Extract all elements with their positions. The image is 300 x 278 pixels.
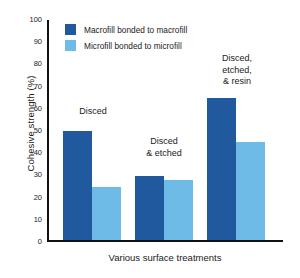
group-label-disced-etched-resin: Disced, etched, & resin (201, 53, 273, 88)
bar-group1-microfill (92, 187, 121, 240)
y-tick-40: 40 (16, 149, 42, 157)
y-tick-0: 0 (16, 238, 42, 246)
legend: Macrofill bonded to macrofill Microfill … (65, 24, 235, 56)
bar-group1-macrofill (63, 131, 92, 240)
legend-swatch-macrofill-icon (65, 24, 76, 35)
legend-label-macrofill: Macrofill bonded to macrofill (84, 25, 187, 35)
y-axis-tick-labels: 100 90 80 70 60 50 40 30 20 10 0 (16, 20, 42, 242)
y-tick-20: 20 (16, 194, 42, 202)
y-tick-100: 100 (16, 16, 42, 24)
group-label-disced: Disced (57, 106, 129, 118)
legend-swatch-microfill-icon (65, 40, 76, 51)
legend-label-microfill: Microfill bonded to microfill (84, 41, 182, 51)
y-tick-50: 50 (16, 127, 42, 135)
bar-group2-microfill (164, 180, 193, 240)
y-tick-10: 10 (16, 216, 42, 224)
x-axis-title: Various surface treatments (47, 252, 283, 263)
bar-group3-macrofill (207, 98, 236, 240)
y-tick-60: 60 (16, 105, 42, 113)
bar-group2-macrofill (135, 176, 164, 240)
y-tick-70: 70 (16, 83, 42, 91)
legend-item-macrofill: Macrofill bonded to macrofill (65, 24, 235, 35)
y-tick-80: 80 (16, 60, 42, 68)
bar-chart: Cohesive strength (%) 100 90 80 70 60 50… (0, 0, 300, 278)
legend-item-microfill: Microfill bonded to microfill (65, 40, 235, 51)
bar-group3-microfill (236, 142, 265, 240)
group-label-disced-etched: Disced & etched (127, 136, 201, 159)
y-tick-90: 90 (16, 38, 42, 46)
y-tick-30: 30 (16, 171, 42, 179)
plot-area: Disced Disced & etched Disced, etched, &… (47, 20, 283, 242)
